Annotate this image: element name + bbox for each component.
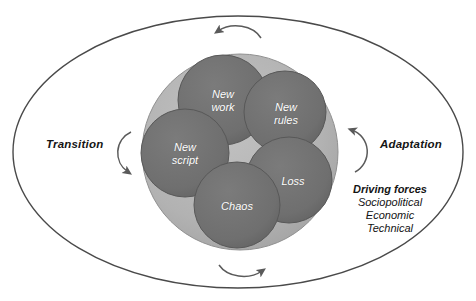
- node-label-new-work: New work: [211, 88, 234, 113]
- node-label-loss: Loss: [281, 175, 304, 188]
- driving-forces-item: Economic: [353, 209, 427, 222]
- label-transition: Transition: [46, 138, 103, 150]
- node-label-line: Loss: [281, 175, 304, 188]
- node-label-line: New: [172, 141, 198, 154]
- diagram-graphics: [0, 0, 476, 301]
- node-label-new-script: New script: [172, 141, 198, 166]
- node-label-line: rules: [274, 113, 298, 126]
- node-label-new-rules: New rules: [274, 101, 298, 126]
- node-label-line: script: [172, 153, 198, 166]
- node-label-chaos: Chaos: [221, 200, 253, 213]
- node-label-line: New: [274, 101, 298, 114]
- diagram-canvas: Transition Adaptation New work New rules…: [0, 0, 476, 301]
- driving-forces-block: Driving forces Sociopolitical Economic T…: [353, 183, 427, 235]
- driving-forces-item: Sociopolitical: [353, 196, 427, 209]
- node-label-line: Chaos: [221, 200, 253, 213]
- driving-forces-item: Technical: [353, 222, 427, 235]
- label-adaptation: Adaptation: [380, 138, 442, 150]
- driving-forces-title: Driving forces: [353, 183, 427, 196]
- node-label-line: work: [211, 100, 234, 113]
- node-label-line: New: [211, 88, 234, 101]
